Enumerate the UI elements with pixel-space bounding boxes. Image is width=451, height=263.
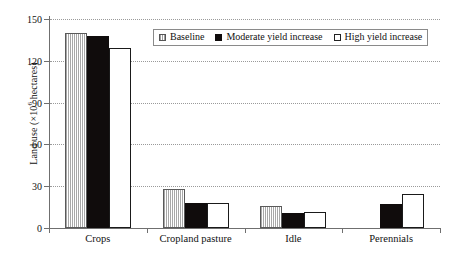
gridline [50,19,440,20]
y-axis-tick-label: 60 [32,139,42,150]
x-axis-line [44,228,441,229]
y-axis-title-main: Land use (×10 [28,106,39,165]
x-axis-label-idle: Idle [285,233,301,244]
bar-crops-moderate [87,36,109,228]
x-axis-label-perennials: Perennials [369,233,413,244]
legend-entry-baseline[interactable]: Baseline [159,32,204,42]
x-axis-tick [49,228,50,233]
x-axis-tick [147,228,148,233]
bar-chart: Land use (×106 hectares) 0306090120150 C… [0,0,451,263]
y-axis-title-tail: hectares) [28,62,39,102]
legend: BaselineModerate yield increaseHigh yiel… [153,29,428,46]
y-axis-tick [44,61,49,62]
bar-idle-moderate [282,213,304,228]
legend-label-moderate: Moderate yield increase [226,32,322,42]
legend-label-high: High yield increase [345,32,423,42]
y-axis-tick [44,19,49,20]
bar-perennials-moderate [380,204,402,228]
bar-cropland-pasture-high [207,203,229,228]
bar-idle-high [304,212,326,228]
bar-cropland-pasture-baseline [163,189,185,228]
legend-swatch-baseline-icon [159,34,166,41]
bar-perennials-high [402,194,424,228]
x-axis-label-crops: Crops [85,233,110,244]
legend-swatch-high-icon [334,34,341,41]
y-axis-tick-label: 0 [37,223,42,234]
y-axis-tick [44,103,49,104]
legend-swatch-moderate-icon [215,34,222,41]
bar-crops-baseline [65,33,87,228]
bar-crops-high [109,48,131,228]
y-axis-tick [44,144,49,145]
y-axis-tick-label: 90 [32,97,42,108]
y-axis-tick-label: 120 [27,55,42,66]
bar-cropland-pasture-moderate [185,203,207,228]
x-axis-tick [342,228,343,233]
y-axis-line [49,16,50,228]
legend-label-baseline: Baseline [170,32,204,42]
legend-entry-moderate[interactable]: Moderate yield increase [215,32,322,42]
y-axis-tick [44,186,49,187]
x-axis-label-cropland-pasture: Cropland pasture [160,233,232,244]
y-axis-tick-label: 30 [32,181,42,192]
x-axis-tick [245,228,246,233]
y-axis-tick-label: 150 [27,14,42,25]
plot-area: 0306090120150 [49,19,440,228]
legend-entry-high[interactable]: High yield increase [334,32,423,42]
bar-idle-baseline [260,206,282,228]
x-axis-tick [440,228,441,233]
